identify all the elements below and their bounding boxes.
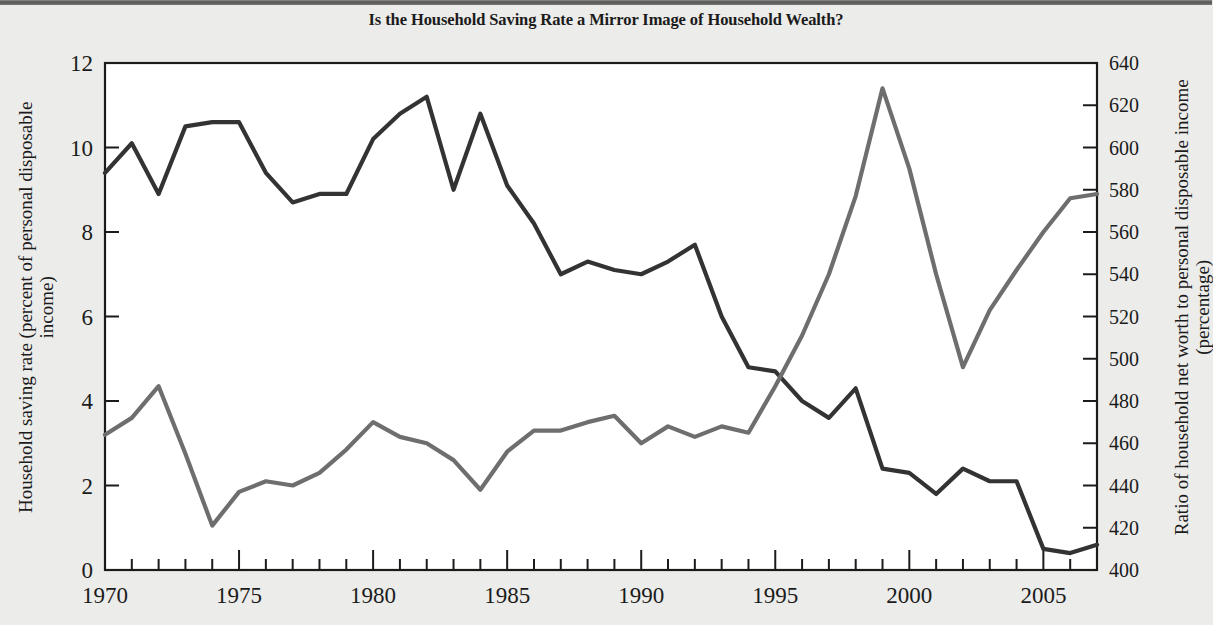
x-tick-label: 1980 — [350, 583, 396, 608]
left-tick-label: 12 — [70, 51, 93, 76]
left-tick-label: 8 — [82, 220, 94, 245]
left-tick-label: 4 — [82, 389, 94, 414]
x-tick-label: 2000 — [886, 583, 932, 608]
x-tick-label: 1995 — [752, 583, 798, 608]
right-tick-label: 540 — [1109, 263, 1139, 285]
right-tick-label: 500 — [1109, 348, 1139, 370]
x-tick-label: 2005 — [1020, 583, 1066, 608]
right-tick-label: 620 — [1109, 94, 1139, 116]
right-tick-label: 460 — [1109, 432, 1139, 454]
right-tick-label: 640 — [1109, 52, 1139, 74]
left-tick-label: 2 — [82, 474, 94, 499]
right-tick-label: 520 — [1109, 306, 1139, 328]
left-tick-label: 6 — [82, 305, 94, 330]
right-tick-label: 560 — [1109, 221, 1139, 243]
x-tick-label: 1975 — [216, 583, 262, 608]
right-tick-label: 420 — [1109, 517, 1139, 539]
left-tick-label: 0 — [82, 558, 94, 583]
right-tick-label: 600 — [1109, 137, 1139, 159]
x-tick-label: 1985 — [484, 583, 530, 608]
left-tick-label: 10 — [70, 136, 93, 161]
x-tick-label: 1970 — [82, 583, 128, 608]
right-tick-label: 440 — [1109, 475, 1139, 497]
right-tick-label: 480 — [1109, 390, 1139, 412]
right-tick-label: 580 — [1109, 179, 1139, 201]
x-tick-label: 1990 — [618, 583, 664, 608]
right-tick-label: 400 — [1109, 559, 1139, 581]
